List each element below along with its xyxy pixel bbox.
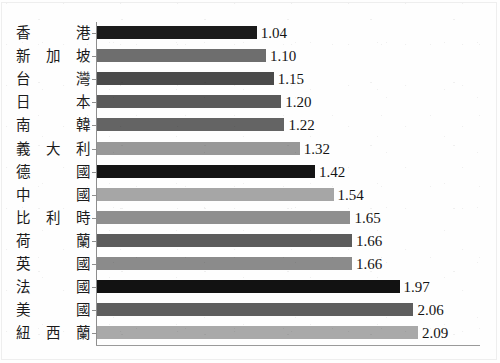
bar-row: 台 灣1.15: [0, 68, 500, 91]
bar: [97, 280, 400, 293]
bar-value-label: 1.32: [304, 139, 330, 160]
bar-row: 荷 蘭1.66: [0, 230, 500, 253]
bar-value-label: 1.97: [404, 277, 430, 298]
bar: [97, 118, 284, 131]
bar-row: 紐西蘭2.09: [0, 322, 500, 345]
category-label: 台 灣: [16, 68, 90, 91]
bar-value-label: 1.66: [356, 254, 382, 275]
bar-row: 美 國2.06: [0, 299, 500, 322]
bar-row: 義大利1.32: [0, 138, 500, 161]
bar-value-label: 1.65: [354, 208, 380, 229]
category-label: 美 國: [16, 299, 90, 322]
category-label: 德 國: [16, 161, 90, 184]
bar-chart: 香 港1.04新加坡1.10台 灣1.15日 本1.20南 韓1.22義大利1.…: [0, 0, 500, 363]
bar-row: 中 國1.54: [0, 184, 500, 207]
category-label: 中 國: [16, 184, 90, 207]
bar-value-label: 1.54: [338, 185, 364, 206]
category-label: 法 國: [16, 276, 90, 299]
bar: [97, 326, 418, 339]
bar-value-label: 1.15: [278, 69, 304, 90]
category-label: 英 國: [16, 253, 90, 276]
bar: [97, 211, 350, 224]
bar-value-label: 1.22: [288, 115, 314, 136]
category-label: 比利時: [16, 207, 90, 230]
bar-row: 法 國1.97: [0, 276, 500, 299]
bar-value-label: 1.10: [270, 46, 296, 67]
category-label: 香 港: [16, 22, 90, 45]
bar-row: 日 本1.20: [0, 91, 500, 114]
bar-value-label: 1.20: [285, 92, 311, 113]
category-label: 義大利: [16, 138, 90, 161]
category-label: 南 韓: [16, 114, 90, 137]
bar-row: 香 港1.04: [0, 22, 500, 45]
bar: [97, 49, 266, 62]
bar: [97, 72, 274, 85]
bar: [97, 165, 315, 178]
bar: [97, 26, 257, 39]
category-label: 荷 蘭: [16, 230, 90, 253]
bar: [97, 188, 334, 201]
bar-row: 英 國1.66: [0, 253, 500, 276]
bar-value-label: 1.66: [356, 231, 382, 252]
bar-row: 南 韓1.22: [0, 114, 500, 137]
bar: [97, 142, 300, 155]
bar-value-label: 1.04: [261, 23, 287, 44]
bar: [97, 303, 413, 316]
bar: [97, 95, 281, 108]
bar: [97, 234, 352, 247]
bar-row: 新加坡1.10: [0, 45, 500, 68]
bar-row: 德 國1.42: [0, 161, 500, 184]
bar-row: 比利時1.65: [0, 207, 500, 230]
category-label: 日 本: [16, 91, 90, 114]
bar-value-label: 1.42: [319, 162, 345, 183]
bar-rows-container: 香 港1.04新加坡1.10台 灣1.15日 本1.20南 韓1.22義大利1.…: [0, 0, 500, 363]
bar-value-label: 2.06: [417, 300, 443, 321]
bar: [97, 257, 352, 270]
category-label: 紐西蘭: [16, 322, 90, 345]
category-label: 新加坡: [16, 45, 90, 68]
bar-value-label: 2.09: [422, 323, 448, 344]
